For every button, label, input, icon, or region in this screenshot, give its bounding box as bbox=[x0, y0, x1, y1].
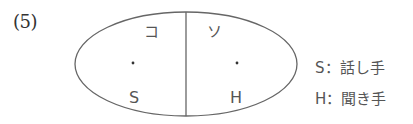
hearer-label: H bbox=[230, 88, 242, 107]
speaker-label: S bbox=[129, 88, 139, 107]
left-demonstrative: コ bbox=[144, 23, 159, 41]
hearer-point bbox=[236, 62, 239, 65]
legend-hearer: H：聞き手 bbox=[315, 87, 386, 108]
legend-speaker: S：話し手 bbox=[315, 56, 385, 77]
speaker-point bbox=[132, 62, 135, 65]
right-demonstrative: ソ bbox=[207, 23, 222, 41]
